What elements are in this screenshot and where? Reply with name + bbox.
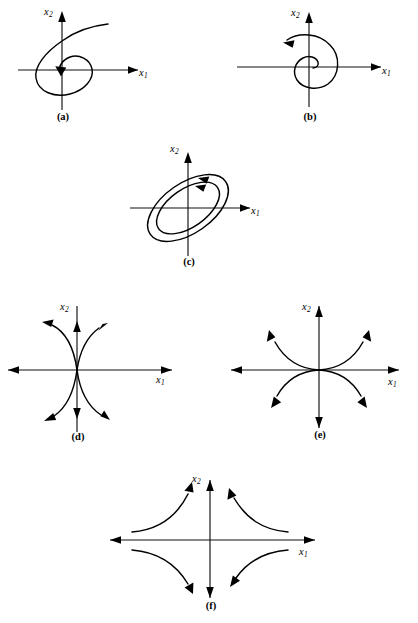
x1-axis-label-f: x1 [299,547,307,558]
trajectory-lower-right-f [236,550,288,578]
trajectory-arrowhead-upper-right-f [227,488,236,500]
x1-axis-label-a: x1 [139,68,147,79]
x1-axis-label-e: x1 [388,377,396,388]
panel-d-plot [0,292,209,434]
panel-a-plot [0,0,209,118]
trajectory-arrowhead-upper-right-d [98,323,108,331]
trajectory-spiral-outward-b [287,35,338,88]
phase-portrait-figure: x2 x1 (a) x2 x1 (b) [0,0,418,623]
panel-d: x2 x1 (d) [0,292,209,452]
trajectory-lower-left-e [277,370,319,396]
panel-caption-b: (b) [295,112,325,123]
x2-axis-label-c: x2 [170,144,178,155]
trajectory-arrowhead-upper-left-e [267,330,276,342]
trajectory-upper-left-f [132,494,188,532]
trajectory-arrowhead-lower-left-d [44,413,56,421]
trajectory-arrowhead-b [283,40,295,48]
x2-axis-arrowhead-upper-f [206,480,214,491]
x2-axis-arrowhead-lower-f [206,587,214,598]
x1-axis-label-b: x1 [382,66,390,77]
trajectory-arrowhead-lower-right-e [357,396,367,408]
panel-e: x2 x1 (e) [209,292,418,452]
trajectory-upper-right-d [77,328,99,370]
trajectory-arrowhead-upper-left-d [42,320,54,328]
panel-caption-d: (d) [63,432,93,443]
x1-axis-arrowhead-c [240,204,250,212]
panel-c: x2 x1 (c) [110,138,310,280]
x2-axis-arrowhead-upper-e [315,306,323,317]
panel-b: x2 x1 (b) [209,0,418,135]
panel-f-plot [100,468,330,604]
x2-axis-label-d: x2 [60,302,68,313]
trajectory-arrowhead-lower-right-d [100,410,110,420]
trajectory-upper-right-e [319,342,363,370]
panel-caption-e: (e) [305,430,335,441]
x2-axis-label-a: x2 [44,7,52,18]
trajectory-arrowhead-a [55,66,66,76]
x2-axis-arrowhead-c [184,152,192,163]
x2-axis-arrowhead-lower-d [73,408,81,419]
panel-caption-f: (f) [196,601,226,612]
x2-axis-arrowhead-upper-d [73,321,81,332]
trajectory-lower-right-e [319,370,361,396]
panel-caption-a: (a) [48,112,78,123]
x2-axis-arrowhead-lower-e [315,417,323,428]
x1-axis-label-c: x1 [251,206,259,217]
x1-axis-arrowhead-right-e [388,366,399,374]
panel-caption-c: (c) [174,257,204,268]
panel-e-plot [209,292,418,434]
x1-axis-arrowhead-left-d [8,366,19,374]
trajectory-upper-left-e [275,342,319,370]
trajectory-upper-left-d [52,325,77,370]
trajectory-arrowhead-inner-c [195,185,206,192]
trajectory-lower-left-f [132,550,188,584]
panel-a: x2 x1 (a) [0,0,209,135]
x1-axis-arrowhead-left-e [231,366,242,374]
x1-axis-arrowhead-right-d [161,366,172,374]
trajectory-arrowhead-lower-left-e [271,396,281,408]
x1-axis-arrowhead-a [128,66,138,74]
trajectory-spiral-inward-a [36,24,108,95]
x1-axis-arrowhead-right-f [304,536,315,544]
x1-axis-label-d: x1 [156,375,164,386]
trajectory-arrowhead-lower-right-f [230,576,240,587]
x1-axis-arrowhead-b [371,63,381,71]
trajectory-arrowhead-lower-left-f [185,583,194,594]
panel-c-plot [110,138,310,260]
panel-b-plot [209,0,418,118]
trajectory-arrowhead-upper-right-e [363,330,372,342]
x2-axis-label-e: x2 [302,302,310,313]
x2-axis-arrowhead-b [305,12,313,23]
panel-f: x2 x1 (f) [100,468,330,623]
trajectory-lower-left-d [54,370,77,416]
x2-axis-label-f: x2 [192,474,200,485]
x1-axis-arrowhead-left-f [110,536,121,544]
trajectory-upper-right-f [234,498,288,532]
x2-axis-label-b: x2 [291,8,299,19]
x2-axis-arrowhead-a [58,11,66,22]
